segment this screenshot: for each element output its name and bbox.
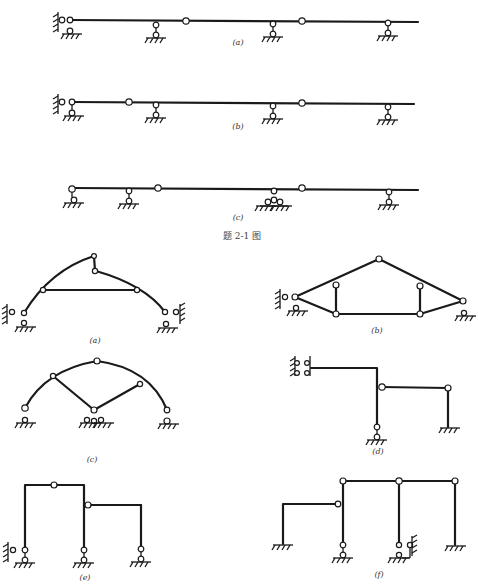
label-2-2-e: (e) xyxy=(80,573,91,582)
label-2-2-c: (c) xyxy=(87,455,98,464)
label-2-2-a: (a) xyxy=(89,336,100,345)
arch-c xyxy=(15,358,179,429)
truss-b xyxy=(275,256,476,321)
figure-caption: 题 2-1 图 xyxy=(223,229,261,242)
frame-d xyxy=(290,356,460,445)
label-2-2-f: (f) xyxy=(374,570,383,579)
frame-f xyxy=(272,478,466,563)
arch-a xyxy=(2,254,185,333)
label-2-1-b: (b) xyxy=(232,122,243,131)
beam-c xyxy=(63,185,418,211)
label-2-2-d: (d) xyxy=(372,447,383,456)
label-2-1-c: (c) xyxy=(233,213,244,222)
frame-e xyxy=(3,482,151,568)
beam-b xyxy=(53,94,414,125)
label-2-2-b: (b) xyxy=(371,326,382,335)
label-2-1-a: (a) xyxy=(232,38,243,47)
diagram-canvas xyxy=(0,0,478,588)
